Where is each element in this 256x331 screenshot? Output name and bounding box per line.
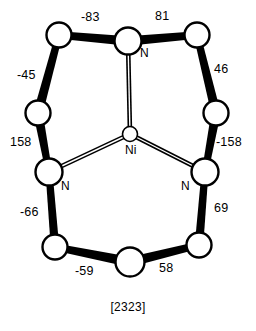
atom-circle-c-bottom-left [43, 235, 68, 260]
atom-circle-c-mid-left [26, 101, 51, 126]
torsion-angle-upper-left: -45 [17, 69, 36, 82]
atom-label-nitrogen-right: N [181, 180, 190, 192]
torsion-angle-bottom-left: -59 [75, 265, 94, 278]
torsion-angle-top-left: -83 [81, 11, 100, 24]
atom-circle-n-left [36, 159, 63, 186]
atom-label-ni: Ni [125, 144, 136, 156]
atom-circle-c-top-left [47, 23, 72, 48]
molecular-diagram: -83 81 -45 46 158 -158 -66 69 -59 58 Ni … [0, 0, 256, 331]
atom-circle-c-top-right [185, 23, 210, 48]
torsion-angle-top-right: 81 [155, 10, 169, 23]
atom-circle-c-bottom-right [187, 233, 212, 258]
torsion-angle-upper-right: 46 [214, 63, 228, 76]
structure-drawing [0, 0, 256, 331]
torsion-angle-lower-right: 69 [214, 202, 228, 215]
figure-caption: [2323] [0, 300, 256, 314]
atom-label-nitrogen-left: N [61, 180, 70, 192]
atom-circle-n-top [115, 28, 142, 55]
atom-circle-ni [123, 127, 138, 142]
torsion-angle-bottom-right: 58 [159, 262, 173, 275]
torsion-angle-mid-left: 158 [10, 136, 31, 149]
atom-label-nitrogen-top: N [140, 47, 149, 59]
torsion-angle-lower-left: -66 [20, 206, 39, 219]
atom-circle-n-right [192, 159, 219, 186]
atom-circle-c-bottom-mid [116, 248, 145, 277]
torsion-angle-mid-right: -158 [216, 136, 242, 149]
atom-circle-c-mid-right [204, 101, 229, 126]
